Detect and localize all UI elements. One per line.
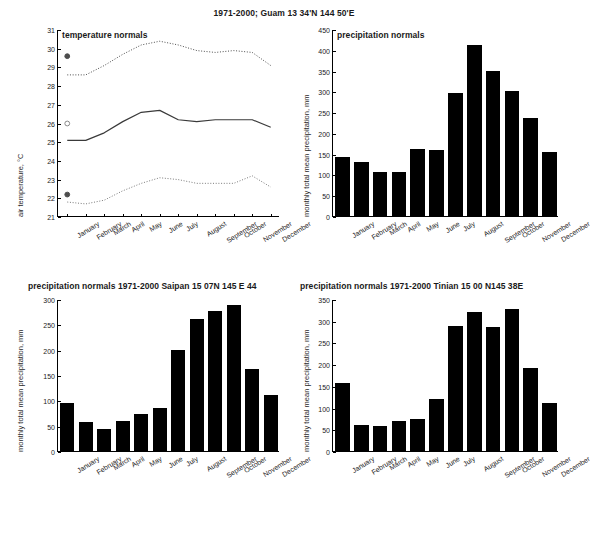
bar [373, 172, 388, 216]
y-tick-label: 450 [309, 27, 330, 34]
bar [97, 429, 111, 451]
x-tick-label: August [205, 455, 227, 472]
y-tick-label: 29 [34, 64, 55, 71]
bar [505, 309, 520, 451]
bar [486, 71, 501, 216]
bar [410, 149, 425, 216]
line-series [67, 176, 271, 204]
y-tick-label: 200 [34, 347, 55, 354]
x-tick-label: August [205, 220, 227, 237]
y-tick-mark [58, 452, 61, 453]
bar [448, 326, 463, 451]
y-tick-label: 300 [309, 318, 330, 325]
y-tick-mark [333, 300, 336, 301]
x-tick-label: May [148, 455, 163, 468]
y-tick-mark [333, 343, 336, 344]
y-tick-mark [333, 72, 336, 73]
y-tick-label: 350 [309, 297, 330, 304]
y-tick-label: 30 [34, 45, 55, 52]
x-tick-label: August [483, 455, 505, 472]
bar [116, 421, 130, 451]
plot-axes: 050100150200250300350JanuaryFebruaryMarc… [332, 300, 558, 452]
y-tick-mark [333, 113, 336, 114]
line-series-layer [58, 30, 280, 217]
y-tick-label: 31 [34, 27, 55, 34]
x-tick-label: July [185, 220, 199, 233]
panel-precipitation-guam: precipitation normalsmonthly total mean … [290, 22, 568, 284]
bar [245, 369, 259, 451]
y-tick-label: 250 [309, 340, 330, 347]
x-tick-label: April [406, 220, 422, 233]
y-tick-mark [58, 300, 61, 301]
y-tick-label: 100 [309, 405, 330, 412]
y-tick-mark [333, 30, 336, 31]
x-tick-label: August [483, 220, 505, 237]
bar [171, 350, 185, 451]
bar [429, 399, 444, 451]
y-tick-label: 50 [309, 427, 330, 434]
y-tick-label: 26 [34, 120, 55, 127]
y-tick-label: 21 [34, 214, 55, 221]
bar [505, 91, 520, 216]
bar [467, 312, 482, 451]
x-tick-label: May [425, 455, 440, 468]
bar [523, 118, 538, 216]
annual-mean-maximum-marker [65, 54, 70, 59]
bar [486, 327, 501, 451]
y-tick-label: 400 [309, 47, 330, 54]
y-tick-mark [58, 376, 61, 377]
x-tick-label: April [130, 455, 146, 468]
x-tick-label: April [130, 220, 146, 233]
y-tick-label: 0 [309, 449, 330, 456]
y-tick-label: 50 [309, 193, 330, 200]
y-tick-mark [333, 322, 336, 323]
y-tick-label: 0 [309, 214, 330, 221]
plot-axes: 2122232425262728293031JanuaryFebruaryMar… [57, 30, 279, 217]
y-tick-label: 27 [34, 101, 55, 108]
chart-title: precipitation normals 1971-2000 Tinian 1… [300, 281, 523, 291]
bar [264, 395, 278, 451]
y-tick-mark [333, 92, 336, 93]
y-tick-mark [333, 134, 336, 135]
y-tick-label: 150 [309, 383, 330, 390]
y-tick-label: 200 [309, 130, 330, 137]
y-tick-mark [333, 365, 336, 366]
x-tick-label: June [444, 455, 461, 469]
bar [542, 403, 557, 451]
bar [190, 319, 204, 451]
y-tick-label: 250 [309, 110, 330, 117]
bar [392, 172, 407, 216]
bar [392, 421, 407, 451]
y-tick-label: 150 [309, 151, 330, 158]
x-tick-label: June [167, 220, 184, 234]
y-axis-label: air temperature, °C [16, 154, 25, 217]
x-tick-label: April [406, 455, 422, 468]
line-series [67, 110, 271, 140]
bar [208, 311, 222, 451]
bar [335, 383, 350, 451]
panel-temperature-normals: temperature normalsair temperature, °C21… [0, 22, 290, 284]
bar [354, 425, 369, 451]
bar [410, 419, 425, 451]
y-tick-label: 0 [34, 449, 55, 456]
bar [542, 152, 557, 216]
y-tick-label: 300 [34, 297, 55, 304]
y-axis-label: monthly total mean precipitation, mm [16, 329, 25, 452]
bar [335, 157, 350, 216]
x-tick-label: May [148, 220, 163, 233]
bar [134, 414, 148, 451]
bar [523, 368, 538, 451]
bar [60, 403, 74, 451]
annual-mean-minimum-marker [65, 192, 70, 197]
panel-precipitation-tinian: precipitation normals 1971-2000 Tinian 1… [290, 275, 568, 550]
bar [429, 150, 444, 216]
bar [354, 162, 369, 216]
y-tick-mark [58, 351, 61, 352]
y-tick-mark [58, 325, 61, 326]
x-tick-label: July [462, 455, 476, 468]
chart-title: precipitation normals 1971-2000 Saipan 1… [28, 281, 257, 291]
y-tick-label: 22 [34, 195, 55, 202]
y-tick-label: 50 [34, 423, 55, 430]
x-tick-label: May [425, 220, 440, 233]
y-tick-label: 100 [34, 398, 55, 405]
